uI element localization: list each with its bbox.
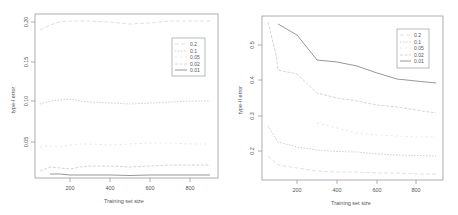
legend-label: 0.01: [414, 58, 424, 64]
legend: 0.2 0.1 0.05 0.02 0.01: [172, 38, 205, 76]
legend-label: 0.2: [414, 32, 421, 38]
y-tick-label: 0.15: [23, 57, 29, 68]
y-tick-label: 0.2: [249, 147, 255, 155]
y-axis-ticks: [258, 45, 262, 151]
y-tick-label: 0.3: [249, 112, 255, 120]
y-tick-label: 0.10: [23, 96, 29, 107]
x-tick-label: 600: [372, 187, 381, 193]
x-axis-ticks: [70, 178, 190, 182]
legend: 0.2 0.1 0.05 0.02 0.01: [397, 29, 429, 68]
x-tick-label: 600: [145, 185, 154, 191]
series-0.1: [40, 99, 210, 104]
y-tick-label: 0.4: [249, 76, 255, 84]
series-0.01: [50, 174, 210, 176]
chart-type-ii-error: 0.2 0.3 0.4 0.5 200 400 600 800 Training…: [237, 16, 443, 206]
figure: 0.05 0.10 0.15 0.20 200 400 600 800 Trai…: [0, 0, 458, 215]
x-axis-label: Training set size: [104, 198, 144, 204]
y-tick-label: 0.20: [23, 17, 29, 28]
legend-label: 0.2: [190, 41, 197, 47]
x-axis-label: Training set size: [331, 200, 371, 206]
legend-label: 0.05: [414, 45, 424, 51]
series-0.02: [40, 165, 210, 171]
x-tick-label: 200: [292, 187, 301, 193]
y-axis-label: type-II error: [237, 86, 243, 115]
y-axis-ticks: [31, 22, 35, 142]
y-tick-label: 0.05: [23, 137, 29, 148]
y-axis-label: type-I error: [10, 86, 16, 113]
x-axis-ticks: [297, 180, 416, 184]
series-0.05: [317, 123, 436, 137]
series-0.2: [268, 156, 436, 174]
x-tick-label: 400: [332, 187, 341, 193]
legend-label: 0.05: [190, 54, 200, 60]
legend-label: 0.01: [190, 67, 200, 73]
x-tick-label: 400: [105, 185, 114, 191]
x-tick-label: 800: [411, 187, 420, 193]
x-tick-label: 200: [65, 185, 74, 191]
series-0.1: [268, 126, 436, 156]
series-0.05: [40, 143, 210, 147]
y-tick-label: 0.5: [249, 41, 255, 49]
chart-type-i-error: 0.05 0.10 0.15 0.20 200 400 600 800 Trai…: [10, 14, 218, 204]
x-tick-label: 800: [185, 185, 194, 191]
series-0.2: [40, 21, 210, 30]
